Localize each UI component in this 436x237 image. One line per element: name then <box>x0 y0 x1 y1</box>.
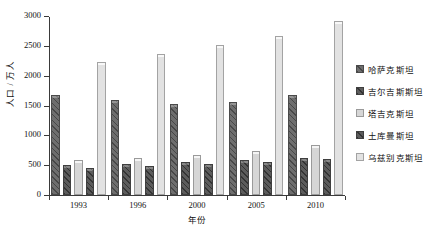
bar <box>252 151 261 195</box>
bar-highlight <box>241 161 248 163</box>
bar <box>97 62 106 195</box>
bar <box>134 158 143 195</box>
bar <box>300 158 309 195</box>
bar <box>216 45 225 195</box>
bar-highlight <box>182 163 189 165</box>
legend-swatch-icon <box>356 131 364 139</box>
bar-highlight <box>98 63 105 65</box>
y-axis-tick-label: 2500 <box>24 40 41 51</box>
y-axis-tick: 2000 <box>44 76 49 77</box>
x-axis-tick <box>345 196 346 200</box>
bar <box>334 21 343 195</box>
bar-group <box>229 17 284 195</box>
bar <box>240 160 249 195</box>
legend-item-5[interactable]: 乌兹别克斯坦 <box>356 146 436 168</box>
legend-item-label: 土库曼斯坦 <box>368 129 414 141</box>
legend-item-label: 哈萨克斯坦 <box>368 63 414 75</box>
x-axis-line <box>49 195 345 196</box>
y-axis-tick: 1500 <box>44 106 49 107</box>
y-axis-tick-label: 1000 <box>24 129 41 140</box>
bar <box>311 145 320 195</box>
bar <box>288 95 297 195</box>
legend-swatch-icon <box>356 153 364 161</box>
bar-highlight <box>205 165 212 167</box>
bar-highlight <box>276 37 283 39</box>
bar-highlight <box>112 101 119 103</box>
y-axis-tick: 2500 <box>44 46 49 47</box>
bar-highlight <box>171 105 178 107</box>
bar <box>275 36 284 195</box>
legend-item-label: 吉尔吉斯斯坦 <box>368 85 423 97</box>
y-axis-tick-label: 3000 <box>24 10 41 21</box>
y-axis-tick-label: 0 <box>37 189 41 200</box>
bar-highlight <box>312 146 319 148</box>
bar-highlight <box>158 55 165 57</box>
bar <box>181 162 190 195</box>
bar-highlight <box>135 159 142 161</box>
chart-legend: 哈萨克斯坦吉尔吉斯斯坦塔吉克斯坦土库曼斯坦乌兹别克斯坦 <box>356 58 436 168</box>
bar <box>51 95 60 195</box>
bar <box>263 162 272 195</box>
x-axis-tick <box>286 196 287 200</box>
bar-group <box>111 17 166 195</box>
x-axis-tick-label: 1996 <box>129 200 146 210</box>
x-axis-tick <box>227 196 228 200</box>
y-axis-line <box>49 17 50 196</box>
legend-item-3[interactable]: 塔吉克斯坦 <box>356 102 436 124</box>
bar-highlight <box>264 163 271 165</box>
bar <box>204 164 213 195</box>
y-axis-title: 人口 / 万人 <box>3 44 15 124</box>
bar-highlight <box>64 166 71 168</box>
bar-highlight <box>75 161 82 163</box>
bar-highlight <box>52 96 59 98</box>
bar <box>229 102 238 195</box>
legend-swatch-icon <box>356 87 364 95</box>
y-axis-tick: 500 <box>44 165 49 166</box>
bar-highlight <box>146 167 153 169</box>
bar <box>74 160 83 195</box>
bar-group <box>170 17 225 195</box>
bar-group <box>51 17 106 195</box>
bar-highlight <box>289 96 296 98</box>
legend-swatch-icon <box>356 109 364 117</box>
y-axis-tick-label: 500 <box>28 159 41 170</box>
bar-highlight <box>123 165 130 167</box>
bar <box>63 165 72 195</box>
legend-item-label: 乌兹别克斯坦 <box>368 151 423 163</box>
bar <box>122 164 131 195</box>
x-axis-tick-label: 2010 <box>307 200 324 210</box>
bar <box>323 159 332 195</box>
bar <box>193 155 202 195</box>
plot-area: 050010001500200025003000 199319962000200… <box>49 17 345 196</box>
bar <box>111 100 120 195</box>
legend-item-2[interactable]: 吉尔吉斯斯坦 <box>356 80 436 102</box>
population-bar-chart: 人口 / 万人 050010001500200025003000 1993199… <box>0 0 436 237</box>
bar <box>157 54 166 195</box>
bar-highlight <box>301 159 308 161</box>
bar <box>145 166 154 195</box>
x-axis-tick <box>49 196 50 200</box>
legend-item-label: 塔吉克斯坦 <box>368 107 414 119</box>
x-axis-tick-label: 2005 <box>248 200 265 210</box>
x-axis-tick-label: 1993 <box>70 200 87 210</box>
bar-highlight <box>253 152 260 154</box>
bar-highlight <box>230 103 237 105</box>
bar <box>170 104 179 195</box>
y-axis-tick: 3000 <box>44 16 49 17</box>
x-axis-tick <box>167 196 168 200</box>
bar-highlight <box>194 156 201 158</box>
legend-item-1[interactable]: 哈萨克斯坦 <box>356 58 436 80</box>
y-axis-tick: 1000 <box>44 135 49 136</box>
bar-highlight <box>335 22 342 24</box>
bar-group <box>288 17 343 195</box>
legend-swatch-icon <box>356 65 364 73</box>
x-axis-title: 年份 <box>49 213 345 225</box>
legend-item-4[interactable]: 土库曼斯坦 <box>356 124 436 146</box>
bar-highlight <box>217 46 224 48</box>
x-axis-tick-label: 2000 <box>189 200 206 210</box>
bar-highlight <box>324 160 331 162</box>
y-axis-tick-label: 2000 <box>24 70 41 81</box>
y-axis-tick-label: 1500 <box>24 100 41 111</box>
x-axis-tick <box>108 196 109 200</box>
bar-highlight <box>87 169 94 171</box>
